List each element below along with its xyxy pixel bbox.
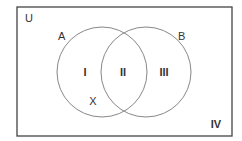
set-a-circle bbox=[57, 27, 147, 117]
region-ii-label: II bbox=[120, 66, 126, 78]
region-i-label: I bbox=[83, 66, 86, 78]
venn-diagram: U A B I II III IV X bbox=[0, 0, 242, 141]
set-b-label: B bbox=[178, 30, 185, 42]
set-a-label: A bbox=[58, 30, 66, 42]
region-iii-label: III bbox=[159, 66, 168, 78]
region-iv-label: IV bbox=[211, 118, 222, 130]
universe-label: U bbox=[25, 12, 33, 24]
point-x-label: X bbox=[89, 95, 97, 107]
